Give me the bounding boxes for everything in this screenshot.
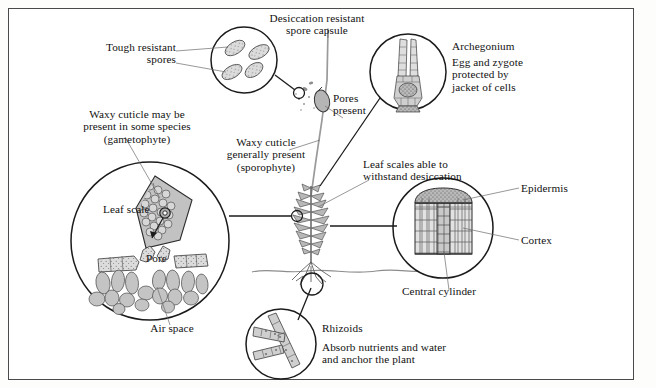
label-leaf-scale: Leaf scale (103, 203, 173, 215)
label-waxy-cuticle-gametophyte: Waxy cuticle may be present in some spec… (62, 108, 212, 145)
label-archegonium-title: Archegonium (452, 40, 572, 52)
label-air-space: Air space (137, 322, 207, 334)
label-pores-present: Pores present (333, 92, 385, 117)
label-epidermis: Epidermis (521, 182, 601, 194)
label-archegonium-body: Egg and zygote protected by jacket of ce… (452, 56, 577, 93)
label-waxy-cuticle-sporophyte: Waxy cuticle generally present (sporophy… (214, 136, 318, 173)
label-rhizoids-title: Rhizoids (322, 322, 402, 334)
label-pore: Pore (146, 252, 186, 264)
label-central-cylinder: Central cylinder (402, 285, 512, 297)
label-tough-resistant-spores: Tough resistant spores (70, 41, 176, 66)
label-desiccation-resistant-spore-capsule: Desiccation resistant spore capsule (258, 12, 376, 37)
label-leaf-scales-desiccation: Leaf scales able to withstand desiccatio… (363, 158, 485, 183)
label-rhizoids-body: Absorb nutrients and water and anchor th… (322, 341, 502, 366)
figure-canvas: Tough resistant spores Desiccation resis… (0, 0, 656, 388)
label-cortex: Cortex (521, 234, 591, 246)
